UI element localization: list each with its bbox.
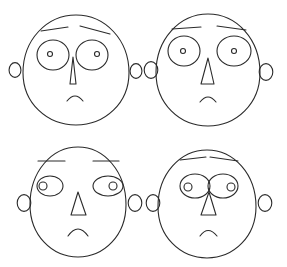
left-eyebrow-icon: [172, 27, 201, 29]
right-ear-icon: [258, 195, 272, 212]
nose-icon: [71, 192, 86, 215]
right-ear-icon: [128, 195, 142, 212]
chernoff-faces-figure: [0, 0, 287, 267]
left-ear-icon: [17, 195, 31, 212]
left-eyebrow-icon: [180, 157, 206, 160]
nose-icon: [70, 57, 76, 84]
head-outline-icon: [23, 15, 129, 125]
right-eye-icon: [217, 36, 251, 66]
left-eye-icon: [37, 40, 69, 70]
right-eye-icon: [93, 176, 123, 196]
right-pupil-icon: [95, 52, 100, 57]
nose-icon: [201, 58, 214, 84]
left-pupil-icon: [39, 182, 47, 190]
left-pupil-icon: [48, 52, 53, 57]
right-pupil-icon: [109, 182, 117, 190]
mouth-icon: [200, 231, 217, 237]
face-bottom-left: [17, 147, 142, 257]
left-pupil-icon: [184, 183, 192, 191]
face-top-left: [9, 15, 142, 125]
right-pupil-icon: [232, 49, 237, 54]
left-eye-icon: [168, 36, 200, 66]
right-eye-icon: [208, 174, 238, 198]
mouth-icon: [68, 229, 88, 236]
head-outline-icon: [158, 150, 256, 258]
face-top-right: [144, 14, 273, 126]
right-ear-icon: [259, 64, 273, 81]
left-pupil-icon: [181, 49, 186, 54]
left-eyebrow-icon: [41, 27, 68, 31]
right-eyebrow-icon: [80, 26, 110, 34]
faces-drawing: [0, 0, 287, 267]
mouth-icon: [200, 97, 216, 102]
left-eye-icon: [37, 176, 63, 196]
right-eye-icon: [76, 40, 108, 70]
face-bottom-right: [146, 150, 272, 258]
right-ear-icon: [130, 64, 142, 79]
right-pupil-icon: [227, 183, 235, 191]
head-outline-icon: [156, 14, 260, 126]
mouth-icon: [67, 96, 83, 101]
left-ear-icon: [9, 63, 21, 78]
head-outline-icon: [30, 147, 126, 257]
